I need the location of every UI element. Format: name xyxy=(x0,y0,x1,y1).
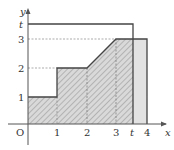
y-axis-arrow-icon xyxy=(26,8,31,14)
y-tick-t: t xyxy=(19,19,24,30)
y-tick-2: 2 xyxy=(18,63,24,74)
x-tick-1: 1 xyxy=(54,127,60,138)
x-axis-arrow-icon xyxy=(161,122,167,127)
gray-area-region xyxy=(133,39,147,124)
y-axis-label: y xyxy=(19,6,26,17)
x-tick-t: t xyxy=(130,127,135,138)
y-tick-1: 1 xyxy=(18,92,24,103)
area-diagram: x y O 1 2 3 t 4 1 2 3 t xyxy=(0,0,174,150)
x-axis-label: x xyxy=(165,127,171,138)
origin-label: O xyxy=(16,127,24,138)
x-tick-4: 4 xyxy=(144,127,150,138)
hatched-area-region xyxy=(28,39,133,124)
x-tick-3: 3 xyxy=(113,127,119,138)
y-tick-3: 3 xyxy=(18,34,24,45)
x-tick-2: 2 xyxy=(84,127,90,138)
